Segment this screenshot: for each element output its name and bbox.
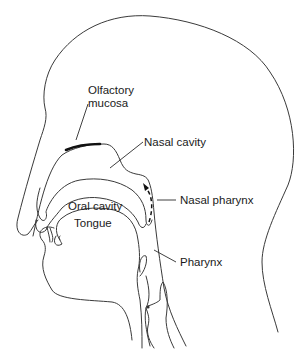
airflow-arrow bbox=[146, 188, 152, 222]
lower-lip-chin bbox=[40, 227, 132, 340]
dashed-arrow-up-icon bbox=[143, 183, 149, 191]
head-outline bbox=[17, 16, 294, 332]
label-olfactory-line2: mucosa bbox=[88, 97, 134, 110]
larynx-back bbox=[148, 282, 174, 348]
label-olfactory: Olfactory mucosa bbox=[88, 84, 134, 110]
leader-pharynx bbox=[154, 250, 176, 262]
leader-nasal-cavity bbox=[110, 142, 143, 168]
head-sagittal-diagram bbox=[0, 0, 303, 352]
larynx-front bbox=[145, 276, 150, 346]
lip-detail bbox=[47, 227, 53, 242]
label-pharynx: Pharynx bbox=[180, 256, 222, 269]
vocal-cord-dot bbox=[146, 305, 149, 308]
label-oral-cavity: Oral cavity bbox=[68, 200, 122, 213]
vocal-fold bbox=[146, 308, 154, 348]
label-nasal-pharynx: Nasal pharynx bbox=[180, 194, 254, 207]
epiglottis bbox=[139, 256, 146, 276]
label-olfactory-line1: Olfactory bbox=[88, 84, 134, 97]
olfactory-mucosa-highlight bbox=[66, 144, 100, 150]
leader-olfactory-mucosa bbox=[76, 104, 88, 140]
label-nasal-cavity: Nasal cavity bbox=[144, 136, 206, 149]
label-tongue: Tongue bbox=[74, 217, 112, 230]
